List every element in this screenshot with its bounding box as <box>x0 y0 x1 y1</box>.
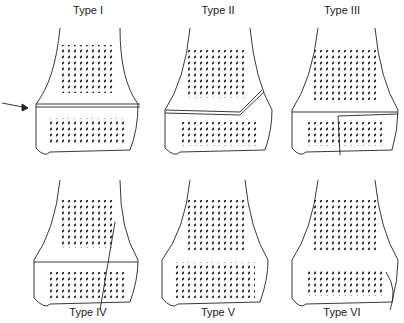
label-type-v: Type V <box>178 306 258 318</box>
label-type-i: Type I <box>48 4 128 16</box>
label-type-iv: Type IV <box>48 306 128 318</box>
label-type-ii: Type II <box>178 4 258 16</box>
label-type-vi: Type VI <box>302 306 382 318</box>
salter-harris-diagram: Type I Type II Type III Type IV Type V T… <box>0 0 404 323</box>
label-type-iii: Type III <box>302 4 382 16</box>
bones-illustration <box>0 0 404 323</box>
